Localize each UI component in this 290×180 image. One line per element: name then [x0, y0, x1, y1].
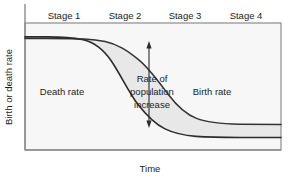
stage-label-4: Stage 4: [230, 10, 263, 21]
chart-screenshot: Stage 1 Stage 2 Stage 3 Stage 4 Death ra…: [0, 0, 290, 180]
population-increase-label-line-2: population: [130, 86, 174, 97]
death-rate-label: Death rate: [40, 86, 84, 97]
y-axis-label: Birth or death rate: [3, 49, 14, 125]
stage-label-2: Stage 2: [109, 10, 142, 21]
birth-rate-label: Birth rate: [193, 86, 232, 97]
x-axis-label: Time: [140, 163, 161, 174]
stage-label-1: Stage 1: [48, 10, 81, 21]
stage-label-3: Stage 3: [169, 10, 202, 21]
population-increase-label-line-3: increase: [134, 99, 170, 110]
demographic-transition-chart: Stage 1 Stage 2 Stage 3 Stage 4 Death ra…: [0, 0, 290, 180]
population-increase-label-line-1: Rate of: [137, 73, 168, 84]
